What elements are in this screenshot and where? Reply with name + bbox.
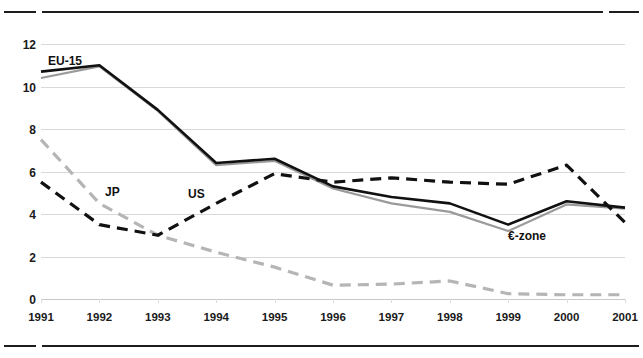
x-tick-1997 [391, 299, 392, 303]
series-line-eu15 [41, 65, 625, 224]
x-tick-label-2000: 2000 [540, 312, 594, 324]
bottom-rule-left-stub [4, 345, 36, 347]
y-tick-label-10: 10 [6, 82, 36, 94]
top-rule-left-stub [4, 11, 36, 13]
x-tick-label-1996: 1996 [306, 312, 360, 324]
x-tick-2001 [625, 299, 626, 303]
y-tick-label-4: 4 [6, 209, 36, 221]
x-tick-label-1991: 1991 [14, 312, 68, 324]
x-tick-1992 [99, 299, 100, 303]
series-line-zone [41, 66, 625, 231]
plot-area [41, 44, 625, 299]
y-tick-label-2: 2 [6, 252, 36, 264]
y-tick-label-0: 0 [6, 294, 36, 306]
x-tick-1999 [508, 299, 509, 303]
y-tick-label-12: 12 [6, 39, 36, 51]
x-tick-1996 [333, 299, 334, 303]
x-tick-label-1995: 1995 [248, 312, 302, 324]
series-label-jp: JP [105, 186, 120, 198]
x-tick-1993 [158, 299, 159, 303]
x-tick-label-1997: 1997 [364, 312, 418, 324]
x-tick-label-1993: 1993 [131, 312, 185, 324]
x-tick-label-1992: 1992 [72, 312, 126, 324]
series-lines [41, 44, 625, 299]
x-tick-1994 [216, 299, 217, 303]
x-tick-label-1994: 1994 [189, 312, 243, 324]
series-label-eu15: EU-15 [48, 55, 82, 67]
bottom-rule [42, 345, 639, 347]
series-label-us: US [188, 188, 205, 200]
top-rule [42, 11, 603, 13]
x-tick-1991 [41, 299, 42, 303]
top-rule-right-stub [609, 11, 639, 13]
series-label-ezone: €-zone [508, 230, 546, 242]
chart-figure: 024681012 199119921993199419951996199719… [0, 0, 643, 358]
x-tick-label-1999: 1999 [481, 312, 535, 324]
x-tick-label-1998: 1998 [423, 312, 477, 324]
x-tick-label-2001: 2001 [598, 312, 643, 324]
y-tick-label-8: 8 [6, 124, 36, 136]
x-tick-1998 [450, 299, 451, 303]
series-line-us [41, 165, 625, 235]
x-tick-1995 [275, 299, 276, 303]
y-tick-label-6: 6 [6, 167, 36, 179]
x-tick-2000 [567, 299, 568, 303]
